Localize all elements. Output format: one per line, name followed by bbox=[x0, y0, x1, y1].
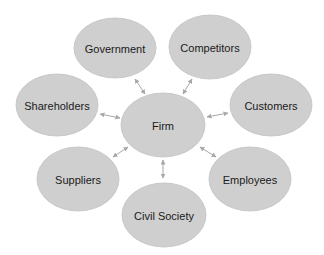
double-arrow-icon bbox=[135, 79, 145, 94]
node-employees: Employees bbox=[209, 147, 291, 211]
node-shareholders: Shareholders bbox=[16, 74, 98, 136]
node-government: Government bbox=[74, 18, 156, 78]
node-label: Customers bbox=[244, 100, 298, 112]
node-label: Shareholders bbox=[24, 100, 90, 112]
double-arrow-icon bbox=[207, 113, 228, 117]
double-arrow-icon bbox=[100, 114, 120, 118]
double-arrow-icon bbox=[113, 147, 128, 157]
node-label: Government bbox=[85, 43, 146, 55]
node-label: Employees bbox=[223, 174, 278, 186]
node-label: Competitors bbox=[180, 42, 240, 54]
node-label: Firm bbox=[152, 120, 174, 132]
node-customers: Customers bbox=[230, 74, 312, 136]
node-label: Civil Society bbox=[134, 210, 194, 222]
stakeholder-diagram: GovernmentCompetitorsShareholdersCustome… bbox=[0, 0, 324, 255]
node-firm: Firm bbox=[121, 93, 205, 157]
node-label: Suppliers bbox=[55, 174, 101, 186]
node-competitors: Competitors bbox=[169, 15, 251, 79]
nodes-layer: GovernmentCompetitorsShareholdersCustome… bbox=[16, 15, 312, 247]
double-arrow-icon bbox=[200, 147, 216, 157]
node-civil-society: Civil Society bbox=[122, 183, 206, 247]
diagram-canvas: GovernmentCompetitorsShareholdersCustome… bbox=[0, 0, 324, 255]
double-arrow-icon bbox=[183, 79, 192, 94]
node-suppliers: Suppliers bbox=[37, 147, 119, 211]
